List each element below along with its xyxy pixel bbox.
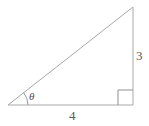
- opposite-side-label: 3: [136, 49, 143, 62]
- theta-angle-label: θ: [29, 91, 34, 102]
- adjacent-side-label: 4: [69, 109, 76, 122]
- right-triangle-figure: 3 4 θ: [0, 0, 149, 126]
- hypotenuse-line: [8, 7, 133, 105]
- theta-angle-arc: [24, 92, 29, 105]
- right-angle-marker: [118, 90, 133, 105]
